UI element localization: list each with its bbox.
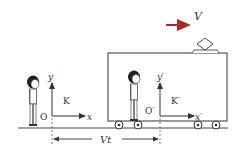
relativity-frames-diagram: V bbox=[0, 0, 242, 157]
train-car bbox=[108, 38, 227, 129]
frame-k-prime-x-label: x′ bbox=[195, 112, 202, 122]
frame-k-origin: O bbox=[40, 112, 47, 122]
frame-k-y-label: y bbox=[47, 72, 54, 82]
frame-k-x-label: x bbox=[87, 112, 92, 122]
frame-k-prime-origin: O′ bbox=[145, 106, 154, 116]
displacement-label: Vt bbox=[100, 134, 112, 145]
frame-k-prime-y-label: y′ bbox=[156, 72, 164, 82]
frame-k-prime-name: K′ bbox=[171, 96, 180, 106]
frame-k-axes bbox=[52, 83, 85, 145]
velocity-label: V bbox=[194, 10, 203, 23]
observer-k bbox=[27, 76, 39, 127]
frame-k-name: K bbox=[63, 96, 70, 106]
